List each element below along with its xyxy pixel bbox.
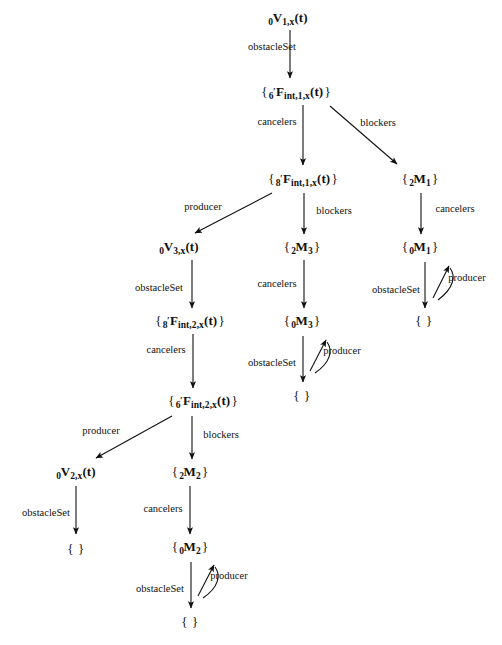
edge-label-obstacleSet: obstacleSet	[136, 584, 184, 595]
edge-label-blockers: blockers	[316, 206, 352, 217]
graph-node-f6int2: { 6′Fint,2,x(t) }	[168, 394, 238, 410]
graph-node-f6int1: { 6′Fint,1,x(t) }	[261, 85, 331, 101]
edge-line	[433, 266, 449, 298]
graph-node-v2x: 0V2,x(t)	[56, 465, 95, 481]
edge-label-obstacleSet: obstacleSet	[372, 285, 420, 296]
graph-node-f8int2: { 8′Fint,2,x(t) }	[155, 314, 225, 330]
edge-line	[195, 193, 272, 233]
graph-node-empty_v2: { }	[67, 542, 85, 555]
graph-node-v3x: 0V3,x(t)	[159, 240, 198, 256]
edge-label-producer: producer	[82, 426, 119, 437]
graph-node-f8int1: { 8′Fint,1,x(t) }	[268, 172, 338, 188]
edge-label-producer: producer	[448, 273, 485, 284]
edge-label-producer: producer	[184, 202, 221, 213]
graph-node-m2_2: { 2M2 }	[172, 465, 209, 481]
graph-node-empty_m1: { }	[415, 314, 433, 327]
edge-label-obstacleSet: obstacleSet	[135, 283, 183, 294]
graph-node-m0_1: { 0M1 }	[402, 240, 439, 256]
graph-node-empty_m2: { }	[181, 615, 199, 628]
edge-label-blockers: blockers	[360, 118, 396, 129]
graph-node-empty_m3: { }	[293, 389, 311, 402]
edge-label-producer: producer	[210, 571, 247, 582]
graph-node-m2_3: { 2M3 }	[284, 240, 321, 256]
edge-label-obstacleSet: obstacleSet	[248, 358, 296, 369]
graph-node-m0_3: { 0M3 }	[284, 314, 321, 330]
edge-label-obstacleSet: obstacleSet	[22, 508, 70, 519]
edge-label-cancelers: cancelers	[257, 117, 296, 128]
graph-node-m2_1: { 2M1 }	[402, 172, 439, 188]
edge-label-blockers: blockers	[203, 430, 239, 441]
edge-label-producer: producer	[323, 346, 360, 357]
edge-label-obstacleSet: obstacleSet	[248, 42, 296, 53]
edge-line	[330, 106, 397, 164]
diagram-canvas: 0V1,x(t){ 6′Fint,1,x(t) }{ 8′Fint,1,x(t)…	[0, 0, 502, 645]
edge-label-cancelers: cancelers	[143, 504, 182, 515]
edge-label-cancelers: cancelers	[146, 345, 185, 356]
edge-line	[96, 416, 172, 458]
graph-node-m0_2: { 0M2 }	[172, 540, 209, 556]
edge-label-cancelers: cancelers	[257, 279, 296, 290]
graph-node-v1x: 0V1,x(t)	[268, 11, 307, 27]
edge-label-cancelers: cancelers	[435, 204, 474, 215]
